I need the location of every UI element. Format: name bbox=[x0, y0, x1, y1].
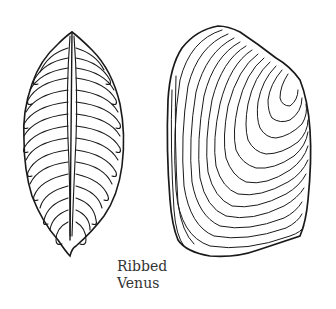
shell-valve-view bbox=[167, 26, 310, 256]
shell-hinge-view bbox=[24, 32, 124, 256]
caption-line-1: Ribbed bbox=[117, 258, 167, 275]
shell-illustration bbox=[0, 0, 336, 309]
shell-caption: Ribbed Venus bbox=[117, 258, 167, 292]
caption-line-2: Venus bbox=[117, 275, 167, 292]
